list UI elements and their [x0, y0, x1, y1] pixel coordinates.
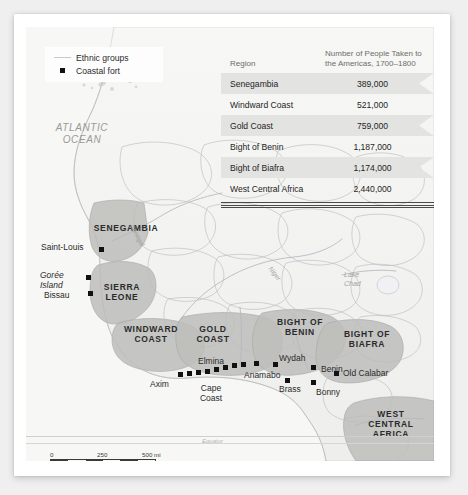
table-row: Senegambia 389,000 [221, 73, 434, 94]
label-city-benin: Benin [321, 364, 343, 374]
legend: Ethnic groups Coastal fort [45, 47, 163, 82]
label-region-gold-coast: GOLD COAST [186, 324, 240, 344]
cell-region: Gold Coast [221, 121, 325, 131]
label-city-goree-island: Gorée Island [40, 270, 64, 290]
scale-bar: 0 250 500 mi 0 250 500 km [50, 451, 170, 461]
scale-miles-ticks: 0 250 500 mi [50, 451, 170, 459]
label-city-wydah: Wydah [279, 353, 305, 363]
square-marker-icon [51, 68, 73, 73]
legend-label-ethnic-groups: Ethnic groups [76, 53, 129, 63]
scale-mi-tick-1: 250 [97, 451, 107, 458]
cell-region: Windward Coast [221, 100, 325, 110]
table-row: Gold Coast 759,000 [221, 115, 434, 136]
bottom-rule [26, 443, 434, 444]
fort-marker-old-calabar [334, 371, 339, 376]
fort-marker-saint-louis [99, 247, 104, 252]
label-region-windward-coast: WINDWARD COAST [116, 324, 186, 344]
fort-marker [196, 370, 201, 375]
column-header-number-line1: Number of People Taken to [325, 49, 434, 59]
cell-region: Bight of Benin [221, 142, 325, 152]
label-region-senegambia: SENEGAMBIA [86, 223, 166, 233]
table-header-row: Region Number of People Taken to the Ame… [221, 47, 434, 73]
cell-region: Bight of Biafra [221, 163, 325, 173]
table-row: West Central Africa 2,440,000 [221, 178, 434, 199]
cell-number: 389,000 [325, 79, 420, 89]
legend-item-coastal-fort: Coastal fort [51, 64, 157, 77]
fort-marker-bissau [88, 291, 93, 296]
label-atlantic: ATLANTIC [44, 122, 120, 134]
fort-marker-goree-island [86, 275, 91, 280]
label-region-sierra-leone: SIERRA LEONE [94, 282, 150, 302]
fort-marker [214, 367, 219, 372]
cell-number: 759,000 [325, 121, 420, 131]
fort-marker-bonny [311, 380, 316, 385]
label-city-anamabo: Anamabo [244, 370, 280, 380]
label-city-axim: Axim [150, 379, 169, 389]
label-city-brass: Brass [279, 384, 301, 394]
label-city-bonny: Bonny [316, 387, 340, 397]
table-row: Bight of Biafra 1,174,000 [221, 157, 434, 178]
label-city-old-calabar: Old Calabar [343, 368, 388, 378]
table-row: Windward Coast 521,000 [221, 94, 434, 115]
fort-marker-brass [285, 378, 290, 383]
label-region-bight-of-benin: BIGHT OF BENIN [271, 317, 329, 337]
fort-marker [254, 361, 259, 366]
map-card: Ethnic groups Coastal fort Region Number… [14, 14, 450, 476]
fort-marker [241, 362, 246, 367]
label-atlantic-ocean: ATLANTIC OCEAN [44, 122, 120, 146]
scale-bar-graphic [50, 459, 156, 461]
map-figure: Ethnic groups Coastal fort Region Number… [26, 27, 434, 461]
column-header-number-line2: the Americas, 1700–1800 [325, 59, 434, 69]
cell-number: 1,174,000 [325, 163, 420, 173]
fort-marker-wydah [273, 362, 278, 367]
label-region-west-central-africa: WEST CENTRAL AFRICA [362, 409, 420, 439]
table-row: Bight of Benin 1,187,000 [221, 136, 434, 157]
fort-marker [187, 371, 192, 376]
label-lake-chad: Lake Chad [344, 271, 361, 288]
cell-region: Senegambia [221, 79, 325, 89]
line-swatch-icon [51, 57, 73, 59]
column-header-number: Number of People Taken to the Americas, … [325, 49, 434, 69]
lake-chad-shape [377, 276, 399, 294]
label-city-bissau: Bissau [44, 290, 70, 300]
cell-number: 1,187,000 [325, 142, 420, 152]
fort-marker [232, 363, 237, 368]
scale-mi-tick-2: 500 mi [142, 451, 161, 458]
legend-item-ethnic-groups: Ethnic groups [51, 51, 157, 64]
table-bottom-rules [221, 202, 434, 208]
label-city-cape-coast: Cape Coast [194, 384, 228, 403]
cell-region: West Central Africa [221, 184, 325, 194]
label-region-bight-of-biafra: BIGHT OF BIAFRA [338, 329, 396, 349]
legend-label-coastal-fort: Coastal fort [76, 66, 120, 76]
fort-marker [205, 369, 210, 374]
cell-number: 521,000 [325, 100, 420, 110]
label-ocean: OCEAN [44, 134, 120, 146]
fort-marker-benin [311, 365, 316, 370]
slave-trade-table: Region Number of People Taken to the Ame… [221, 47, 434, 210]
scale-mi-tick-0: 0 [50, 451, 53, 458]
label-city-elmina: Elmina [198, 356, 224, 366]
cell-number: 2,440,000 [325, 184, 420, 194]
column-header-region: Region [221, 59, 325, 69]
label-city-saint-louis: Saint-Louis [41, 242, 84, 252]
equator-line [26, 436, 434, 437]
fort-marker [178, 372, 183, 377]
fort-marker [223, 365, 228, 370]
